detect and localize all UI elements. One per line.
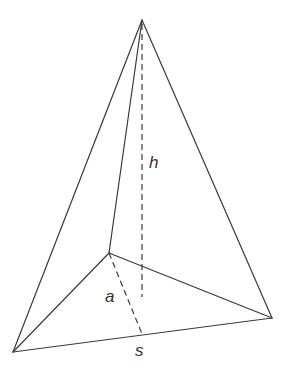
label-h: h <box>149 153 158 172</box>
edge-apex-left <box>13 20 142 352</box>
pyramid-diagram: h a s <box>0 0 292 376</box>
edge-back-left <box>13 253 109 352</box>
label-a: a <box>105 287 114 306</box>
edge-apex-back <box>109 20 142 253</box>
label-s: s <box>135 341 144 360</box>
